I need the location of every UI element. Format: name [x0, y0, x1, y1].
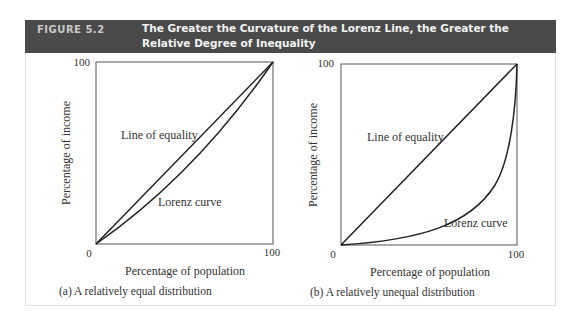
caption-a: (a) A relatively equal distribution: [59, 285, 212, 298]
lorenz-label-b: Lorenz curve: [444, 216, 508, 230]
equality-line-a: [96, 62, 273, 244]
x-tick-100-b: 100: [508, 248, 525, 260]
y-axis-label-a: Percentage of income: [59, 101, 73, 205]
equality-label-b: Line of equality: [367, 130, 444, 144]
lorenz-label-a: Lorenz curve: [158, 195, 222, 209]
x-axis-label-a: Percentage of population: [125, 264, 245, 278]
chart-a: 100 0 100 Percentage of population Perce…: [59, 56, 281, 298]
charts-canvas: 100 0 100 Percentage of population Perce…: [0, 0, 581, 325]
x-tick-0-b: 0: [330, 248, 336, 260]
equality-label-a: Line of equality: [121, 128, 198, 142]
x-tick-100-a: 100: [264, 246, 281, 258]
chart-b: 100 0 100 Percentage of population Perce…: [306, 57, 525, 299]
x-tick-0-a: 0: [86, 247, 92, 259]
y-axis-label-b: Percentage of income: [306, 103, 320, 207]
x-axis-label-b: Percentage of population: [370, 265, 490, 279]
caption-b: (b) A relatively unequal distribution: [310, 286, 475, 299]
y-tick-100-b: 100: [318, 57, 335, 69]
y-tick-100-a: 100: [74, 56, 91, 68]
